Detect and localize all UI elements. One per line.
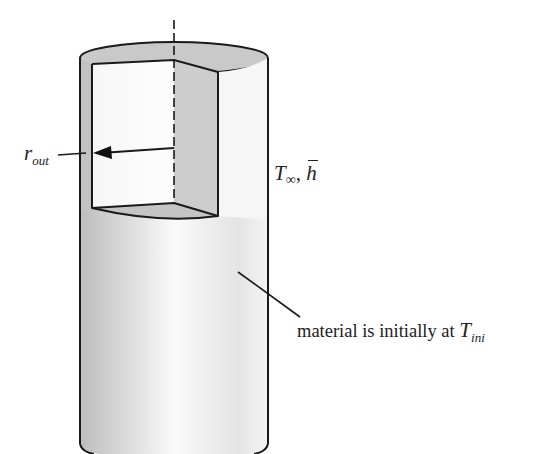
cut-face-right — [174, 60, 218, 216]
radius-label: rout — [24, 143, 49, 164]
cut-wall-right — [218, 58, 268, 220]
cut-face-left — [92, 60, 174, 208]
ambient-temperature-symbol: T — [274, 161, 286, 185]
initial-temperature-subscript: ini — [471, 330, 485, 345]
ambient-separator: , — [296, 161, 307, 185]
material-initial-condition-label: material is initially at Tini — [297, 320, 485, 341]
heat-transfer-coefficient-symbol: h — [306, 163, 317, 184]
cut-wall-left — [80, 58, 92, 212]
radius-symbol: r — [24, 141, 32, 165]
cylinder-diagram — [0, 0, 537, 454]
ambient-temperature-subscript: ∞ — [286, 172, 296, 187]
material-text: material is initially at — [297, 321, 459, 341]
ambient-conditions-label: T∞, h — [274, 163, 317, 184]
initial-temperature-symbol: T — [459, 318, 471, 342]
radius-subscript: out — [32, 153, 49, 168]
